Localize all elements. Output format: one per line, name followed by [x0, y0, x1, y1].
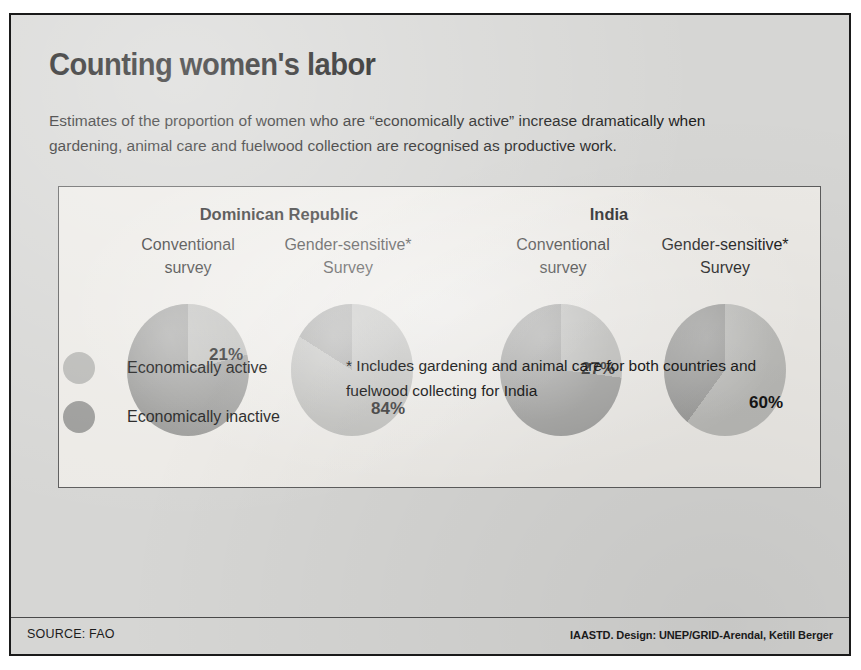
country-label-india: India: [459, 205, 759, 224]
subtitle-line-1: Estimates of the proportion of women who…: [49, 108, 839, 133]
source-text: SOURCE: FAO: [27, 627, 115, 641]
page-title: Counting women's labor: [49, 47, 375, 83]
footnote-line-2: fuelwood collecting for India: [346, 378, 816, 403]
survey-label-line1: Conventional: [99, 233, 277, 256]
survey-label-dr-conventional: Conventional survey: [99, 233, 277, 279]
country-label-dominican-republic: Dominican Republic: [119, 205, 439, 224]
survey-label-line2: survey: [99, 256, 277, 279]
survey-label-line2: Survey: [259, 256, 437, 279]
poster-root: Counting women's labor Estimates of the …: [0, 0, 861, 670]
legend-label: Economically active: [127, 359, 268, 377]
legend-swatch-icon: [63, 401, 95, 433]
footnote: * Includes gardening and animal care for…: [346, 353, 816, 403]
poster-subtitle: Estimates of the proportion of women who…: [49, 108, 839, 158]
legend-swatch-icon: [63, 352, 95, 384]
credit-text: IAASTD. Design: UNEP/GRID-Arendal, Ketil…: [570, 629, 833, 641]
survey-label-india-conventional: Conventional survey: [474, 233, 652, 279]
survey-label-line1: Gender-sensitive*: [259, 233, 437, 256]
survey-label-line1: Gender-sensitive*: [636, 233, 814, 256]
legend-label: Economically inactive: [127, 408, 280, 426]
survey-label-line2: survey: [474, 256, 652, 279]
legend-item-economically-inactive: Economically inactive: [63, 401, 280, 433]
survey-label-india-gender-sensitive: Gender-sensitive* Survey: [636, 233, 814, 279]
survey-label-line2: Survey: [636, 256, 814, 279]
chart-panel: Dominican Republic India Conventional su…: [58, 186, 821, 488]
survey-label-line1: Conventional: [474, 233, 652, 256]
survey-label-dr-gender-sensitive: Gender-sensitive* Survey: [259, 233, 437, 279]
subtitle-line-2: gardening, animal care and fuelwood coll…: [49, 133, 839, 158]
footnote-line-1: * Includes gardening and animal care for…: [346, 353, 816, 378]
poster-card: Counting women's labor Estimates of the …: [9, 13, 851, 656]
source-divider: [11, 617, 849, 619]
legend-item-economically-active: Economically active: [63, 352, 268, 384]
